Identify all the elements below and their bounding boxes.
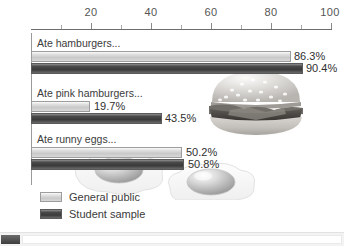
bar-row: 43.5%	[31, 113, 332, 124]
x-axis-tick-100	[331, 23, 332, 29]
bar-general-public-runny-eggs[interactable]	[31, 147, 182, 158]
legend-swatch-student-sample	[40, 209, 62, 219]
scrollbar-track[interactable]	[22, 235, 342, 244]
x-axis-minor-tick-90	[301, 25, 302, 29]
category-label-hamburgers: Ate hamburgers...	[31, 37, 332, 50]
x-axis-tick-label-60: 60	[205, 6, 218, 18]
category-label-pink-hamburgers: Ate pink hamburgers...	[31, 87, 332, 100]
bar-group-pink-hamburgers: Ate pink hamburgers... 19.7% 43.5%	[31, 87, 332, 124]
chart-container: 20 40 60 80 100	[0, 0, 344, 246]
x-axis-tick-40	[151, 23, 152, 29]
legend-item-student-sample[interactable]: Student sample	[40, 207, 145, 221]
x-axis-line	[31, 29, 332, 30]
x-axis-tick-label-40: 40	[145, 6, 158, 18]
x-axis-minor-tick-10	[61, 25, 62, 29]
bar-value-student-sample-pink-hamburgers: 43.5%	[165, 111, 196, 125]
scrollbar-thumb[interactable]	[1, 235, 20, 244]
bar-value-student-sample-runny-eggs: 50.8%	[188, 157, 219, 171]
x-axis-tick-label-20: 20	[85, 6, 98, 18]
category-label-runny-eggs: Ate runny eggs...	[31, 133, 332, 146]
x-axis-tick-60	[211, 23, 212, 29]
x-axis-tick-label-100: 100	[320, 6, 339, 18]
x-axis-tick-80	[271, 23, 272, 29]
bar-student-sample-pink-hamburgers[interactable]	[31, 113, 162, 124]
bar-row: 90.4%	[31, 63, 332, 74]
bar-row: 86.3%	[31, 51, 332, 62]
bar-value-general-public-pink-hamburgers: 19.7%	[94, 99, 125, 113]
bar-group-hamburgers: Ate hamburgers... 86.3% 90.4%	[31, 37, 332, 74]
x-axis-minor-tick-70	[241, 25, 242, 29]
bar-general-public-hamburgers[interactable]	[31, 51, 291, 62]
x-axis-minor-tick-30	[121, 25, 122, 29]
bar-group-runny-eggs: Ate runny eggs... 50.2% 50.8%	[31, 133, 332, 170]
bar-row: 50.2%	[31, 147, 332, 158]
legend-label-general-public: General public	[69, 191, 140, 203]
bar-student-sample-hamburgers[interactable]	[31, 63, 303, 74]
legend: General public Student sample	[40, 190, 145, 224]
bar-general-public-pink-hamburgers[interactable]	[31, 101, 90, 112]
bar-row: 50.8%	[31, 159, 332, 170]
legend-item-general-public[interactable]: General public	[40, 190, 145, 204]
x-axis-minor-tick-50	[181, 25, 182, 29]
bar-value-student-sample-hamburgers: 90.4%	[306, 61, 337, 75]
horizontal-scrollbar[interactable]	[0, 232, 344, 246]
legend-swatch-general-public	[40, 192, 62, 202]
x-axis: 20 40 60 80 100	[0, 0, 344, 33]
bar-student-sample-runny-eggs[interactable]	[31, 159, 184, 170]
x-axis-tick-label-80: 80	[265, 6, 278, 18]
x-axis-tick-20	[91, 23, 92, 29]
legend-label-student-sample: Student sample	[69, 208, 145, 220]
